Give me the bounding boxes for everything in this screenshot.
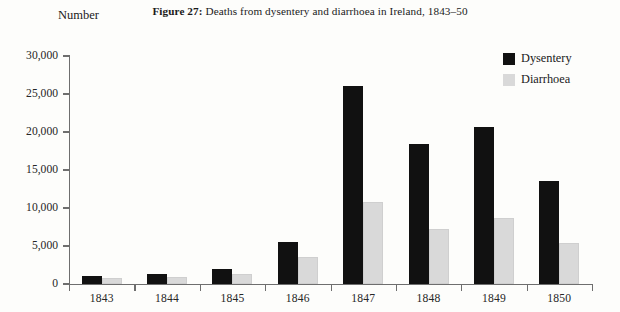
x-axis-tick xyxy=(134,284,135,291)
legend-swatch-icon xyxy=(503,74,515,86)
x-axis-tick xyxy=(265,284,266,291)
bar-dysentery-1850 xyxy=(539,181,559,284)
x-axis-tick xyxy=(592,284,593,291)
x-axis-tick xyxy=(396,284,397,291)
bar-diarrhoea-1850 xyxy=(559,243,579,284)
x-axis-tick-label: 1848 xyxy=(396,292,461,305)
bar-dysentery-1849 xyxy=(474,127,494,284)
legend-label: Diarrhoea xyxy=(521,72,570,87)
x-axis-tick-label: 1850 xyxy=(527,292,592,305)
x-axis-tick-label: 1849 xyxy=(461,292,526,305)
legend-item-dysentery: Dysentery xyxy=(503,48,572,69)
bar-diarrhoea-1843 xyxy=(102,278,122,284)
bar-diarrhoea-1844 xyxy=(167,277,187,284)
x-axis-tick xyxy=(331,284,332,291)
bar-diarrhoea-1846 xyxy=(298,257,318,284)
x-axis-tick xyxy=(200,284,201,291)
bar-diarrhoea-1849 xyxy=(494,218,514,284)
bar-diarrhoea-1845 xyxy=(232,274,252,284)
x-axis-tick-label: 1844 xyxy=(134,292,199,305)
bar-dysentery-1845 xyxy=(212,269,232,284)
bar-dysentery-1844 xyxy=(147,274,167,284)
chart-legend: DysenteryDiarrhoea xyxy=(503,48,572,90)
bars-layer xyxy=(0,0,620,284)
bar-dysentery-1843 xyxy=(82,276,102,284)
x-axis-tick-label: 1846 xyxy=(265,292,330,305)
x-axis-tick-label: 1845 xyxy=(200,292,265,305)
x-axis-tick-label: 1847 xyxy=(331,292,396,305)
bar-dysentery-1848 xyxy=(409,144,429,284)
x-axis-tick xyxy=(69,284,70,291)
bar-dysentery-1846 xyxy=(278,242,298,284)
x-axis-tick xyxy=(527,284,528,291)
bar-dysentery-1847 xyxy=(343,86,363,284)
chart-plot-area: 05,00010,00015,00020,00025,00030,0001843… xyxy=(0,0,620,312)
legend-item-diarrhoea: Diarrhoea xyxy=(503,69,572,90)
x-axis-tick xyxy=(461,284,462,291)
legend-label: Dysentery xyxy=(521,51,572,66)
legend-swatch-icon xyxy=(503,53,515,65)
x-axis-tick-label: 1843 xyxy=(69,292,134,305)
bar-diarrhoea-1848 xyxy=(429,229,449,284)
bar-diarrhoea-1847 xyxy=(363,202,383,284)
